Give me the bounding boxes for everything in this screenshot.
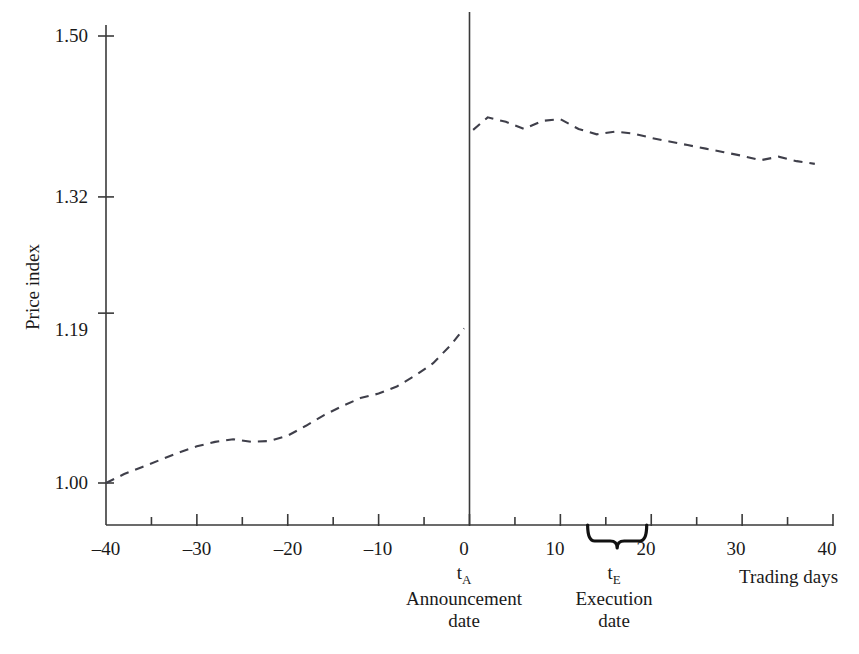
y-tick-label-132: 1.32 — [26, 186, 88, 208]
x-tick-label-minus40: –40 — [76, 538, 136, 560]
x-tick-label-minus10: –10 — [348, 538, 408, 560]
series-line-pre-announcement — [106, 328, 464, 483]
execution-date-annotation: tE Execution date — [554, 562, 674, 631]
y-tick-label-119: 1.19 — [26, 319, 88, 341]
announcement-caption-line2: date — [404, 610, 524, 632]
x-axis-title: Trading days — [739, 566, 838, 588]
x-tick-label-0: 0 — [434, 538, 494, 560]
announcement-symbol: tA — [404, 562, 524, 588]
axes-group — [98, 25, 833, 526]
data-series-group — [106, 117, 815, 483]
announcement-caption-line1: Announcement — [404, 588, 524, 610]
x-tick-label-minus30: –30 — [167, 538, 227, 560]
x-tick-label-40: 40 — [797, 538, 857, 560]
x-tick-label-20: 20 — [616, 538, 676, 560]
series-line-post-announcement — [473, 117, 815, 163]
announcement-date-annotation: tA Announcement date — [404, 562, 524, 631]
announcement-symbol-sub: A — [462, 572, 471, 587]
execution-caption-line1: Execution — [554, 588, 674, 610]
chart-canvas: Price index 1.50 1.32 1.19 1.00 –40 –30 … — [0, 0, 859, 654]
execution-caption-line2: date — [554, 610, 674, 632]
execution-symbol-sub: E — [613, 572, 621, 587]
y-tick-label-150: 1.50 — [26, 25, 88, 47]
x-tick-label-10: 10 — [525, 538, 585, 560]
y-axis-title: Price index — [22, 244, 44, 330]
execution-symbol: tE — [554, 562, 674, 588]
x-tick-label-minus20: –20 — [258, 538, 318, 560]
y-tick-label-100: 1.00 — [26, 472, 88, 494]
x-tick-label-30: 30 — [706, 538, 766, 560]
